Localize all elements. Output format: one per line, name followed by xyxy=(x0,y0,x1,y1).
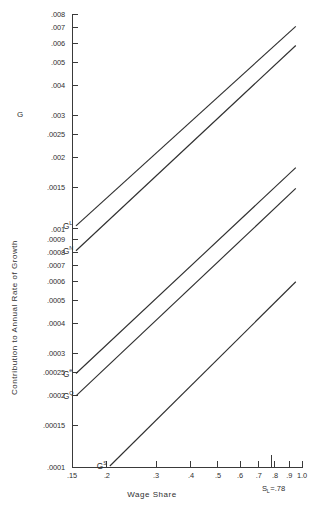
y-tick-label: .0006 xyxy=(47,277,65,286)
series-superscript-G-Q: Q xyxy=(69,390,74,396)
x-tick-label: .5 xyxy=(215,471,221,480)
x-tick-label: .4 xyxy=(188,471,194,480)
y-tick-label: .0025 xyxy=(47,130,65,139)
y-tick-label: .002 xyxy=(51,153,65,162)
x-tick-label: .8 xyxy=(272,471,278,480)
data-series-lines xyxy=(76,26,296,466)
y-tick-label: .00015 xyxy=(43,421,65,430)
y-tick-labels: .0001.00015.0002.00025.0003.0004.0005.00… xyxy=(43,10,65,472)
y-tick-label: .0005 xyxy=(47,296,65,305)
y-tick-label: .00025 xyxy=(43,368,65,377)
y-axis-symbol-label: G xyxy=(17,110,24,119)
x-tick-label: .15 xyxy=(67,471,77,480)
series-superscript-G-N: N xyxy=(69,245,73,251)
series-line-G-e xyxy=(76,168,296,374)
y-tick-label: .0003 xyxy=(47,349,65,358)
series-endpoint-labels: GLGNGeGQGS xyxy=(63,220,107,471)
y-tick-label: .005 xyxy=(51,58,65,67)
x-axis-title: Wage Share xyxy=(127,490,177,499)
y-tick-label: .003 xyxy=(51,111,65,120)
y-tick-label: .0009 xyxy=(47,235,65,244)
sl-annotation-value: =.78 xyxy=(270,484,285,493)
y-axis-ticks xyxy=(72,14,78,467)
x-tick-label: .3 xyxy=(153,471,159,480)
y-tick-label: .008 xyxy=(51,10,65,19)
series-line-G-S xyxy=(110,282,296,466)
sl-annotation-subscript: L xyxy=(267,488,270,494)
x-tick-label: .7 xyxy=(256,471,262,480)
series-superscript-G-e: e xyxy=(69,367,72,373)
x-tick-label: .2 xyxy=(104,471,110,480)
log-log-line-chart: .0001.00015.0002.00025.0003.0004.0005.00… xyxy=(0,0,319,513)
x-tick-label: .9 xyxy=(286,471,292,480)
y-tick-label: .0001 xyxy=(47,463,65,472)
y-tick-label: .0004 xyxy=(47,319,65,328)
y-tick-label: .0015 xyxy=(47,183,65,192)
series-line-G-L xyxy=(76,26,296,226)
y-tick-label: .006 xyxy=(51,39,65,48)
series-superscript-G-L: L xyxy=(69,220,72,226)
y-axis-title: Contribution to Annual Rate of Growth xyxy=(10,240,19,395)
series-superscript-G-S: S xyxy=(103,460,107,466)
y-tick-label: .0007 xyxy=(47,261,65,270)
x-tick-label: .6 xyxy=(237,471,243,480)
x-tick-label: 1.0 xyxy=(297,471,307,480)
y-tick-label: .004 xyxy=(51,81,65,90)
y-tick-label: .007 xyxy=(51,23,65,32)
chart-figure: .0001.00015.0002.00025.0003.0004.0005.00… xyxy=(0,0,319,513)
x-tick-labels: .15.2.3.4.5.6.7.8.91.0 xyxy=(67,471,307,480)
